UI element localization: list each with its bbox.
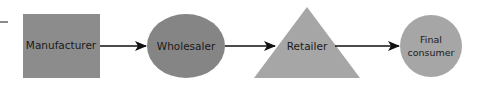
node-manufacturer: Manufacturer xyxy=(23,14,100,78)
node-final-consumer: Final consumer xyxy=(400,15,462,77)
distribution-channel-diagram: Manufacturer Wholesaler Retailer Final c… xyxy=(0,0,488,86)
node-wholesaler: Wholesaler xyxy=(147,14,225,78)
node-label-wholesaler: Wholesaler xyxy=(157,40,216,52)
node-label-consumer: consumer xyxy=(407,47,454,58)
node-retailer: Retailer xyxy=(254,7,360,78)
node-label-final: Final xyxy=(420,34,442,45)
circle-shape xyxy=(400,15,462,77)
node-label-manufacturer: Manufacturer xyxy=(26,39,97,51)
node-label-retailer: Retailer xyxy=(287,40,328,52)
